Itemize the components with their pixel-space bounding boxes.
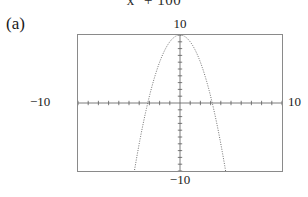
part-label: (a) bbox=[6, 14, 25, 34]
graphing-viewing-window bbox=[77, 34, 283, 172]
x-max-label: 10 bbox=[288, 94, 301, 110]
equation-fragment: x2 + 100 bbox=[0, 0, 308, 9]
equation-fragment-suffix: + 100 bbox=[140, 0, 181, 8]
y-max-label: 10 bbox=[77, 16, 283, 32]
y-min-label: −10 bbox=[77, 172, 283, 188]
figure-root: x2 + 100 (a) 10 −10 −10 10 bbox=[0, 0, 308, 197]
equation-fragment-base: x bbox=[127, 0, 135, 8]
parabola-plot bbox=[78, 35, 282, 171]
x-min-label: −10 bbox=[30, 94, 50, 110]
